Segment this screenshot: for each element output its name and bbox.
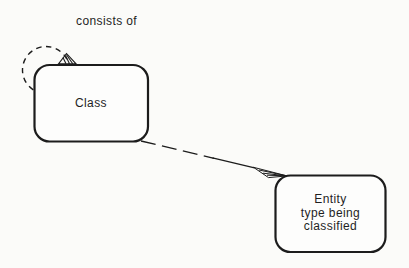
class-box-label: Class — [34, 65, 148, 142]
loop-arrowhead-icon — [59, 54, 77, 64]
association-line-solid-segment — [213, 158, 255, 168]
diagram-canvas: consists of Class Entity type being clas… — [0, 0, 409, 268]
entity-box-label: Entity type being classified — [275, 175, 386, 252]
relation-label: consists of — [76, 15, 137, 29]
association-line-dashed-segment — [141, 141, 214, 158]
